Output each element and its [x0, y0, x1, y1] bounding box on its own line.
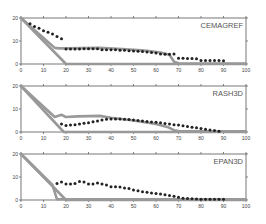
observed-point [159, 121, 162, 124]
x-tick-label: 70 [176, 135, 182, 141]
x-tick-label: 50 [131, 203, 137, 209]
observed-point [38, 27, 41, 30]
y-tick-label: 0 [15, 61, 18, 67]
observed-point [164, 193, 167, 196]
observed-point [132, 188, 135, 191]
observed-point [74, 182, 77, 185]
observed-point [200, 198, 203, 201]
observed-point [92, 120, 95, 123]
observed-point [119, 49, 122, 52]
x-tick-label: 40 [108, 135, 114, 141]
panel-label: RASH3D [213, 89, 244, 98]
observed-point [146, 51, 149, 54]
observed-point [150, 120, 153, 123]
observed-point [191, 197, 194, 200]
observed-point [195, 57, 198, 60]
observed-point [105, 184, 108, 187]
observed-point [141, 119, 144, 122]
observed-point [168, 122, 171, 125]
observed-point [101, 119, 104, 122]
observed-point [150, 51, 153, 54]
observed-point [110, 48, 113, 51]
y-tick-label: 10 [12, 38, 18, 44]
observed-point [168, 194, 171, 197]
x-tick-label: 20 [63, 67, 69, 73]
observed-point [159, 193, 162, 196]
observed-point [213, 129, 216, 132]
observed-point [155, 51, 158, 54]
y-tick-label: 20 [12, 15, 18, 21]
observed-point [204, 198, 207, 201]
observed-point [209, 198, 212, 201]
observed-point [74, 123, 77, 126]
observed-point [155, 121, 158, 124]
x-tick-label: 50 [131, 135, 137, 141]
observed-point [83, 47, 86, 50]
observed-point [146, 191, 149, 194]
x-tick-label: 30 [86, 67, 92, 73]
observed-point [119, 186, 122, 189]
x-tick-label: 60 [153, 135, 159, 141]
chart-svg: 010203040506070809010001020CEMAGREF 0102… [0, 0, 266, 224]
observed-point [33, 25, 36, 28]
observed-point [69, 182, 72, 185]
y-tick-label: 10 [12, 106, 18, 112]
x-tick-label: 50 [131, 67, 137, 73]
observed-point [78, 48, 81, 51]
observed-point [218, 130, 221, 133]
observed-point [146, 120, 149, 123]
observed-point [128, 187, 131, 190]
observed-point [177, 57, 180, 60]
observed-point [164, 122, 167, 125]
observed-point [182, 124, 185, 127]
x-tick-label: 80 [198, 203, 204, 209]
observed-point [60, 122, 63, 125]
observed-point [177, 196, 180, 199]
observed-point [200, 59, 203, 62]
x-tick-label: 60 [153, 203, 159, 209]
observed-point [96, 181, 99, 184]
y-tick-label: 0 [15, 129, 18, 135]
observed-point [218, 59, 221, 62]
observed-point [173, 195, 176, 198]
x-tick-label: 90 [221, 67, 227, 73]
observed-point [56, 35, 59, 38]
observed-point [213, 198, 216, 201]
observed-point [204, 128, 207, 131]
observed-point [123, 187, 126, 190]
panel-label: CEMAGREF [200, 21, 243, 30]
observed-point [191, 126, 194, 129]
observed-point [47, 31, 50, 34]
y-tick-label: 20 [12, 83, 18, 89]
observed-point [173, 53, 176, 56]
observed-point [87, 121, 90, 124]
observed-point [65, 182, 68, 185]
x-tick-label: 10 [41, 135, 47, 141]
observed-point [173, 123, 176, 126]
observed-point [128, 118, 131, 121]
observed-point [119, 118, 122, 121]
x-tick-label: 30 [86, 203, 92, 209]
observed-point [195, 126, 198, 129]
observed-point [60, 37, 63, 40]
observed-point [186, 197, 189, 200]
x-tick-label: 40 [108, 67, 114, 73]
observed-point [92, 182, 95, 185]
x-tick-label: 0 [20, 135, 23, 141]
observed-point [132, 119, 135, 122]
observed-point [218, 198, 221, 201]
observed-point [164, 53, 167, 56]
observed-point [83, 181, 86, 184]
observed-point [78, 122, 81, 125]
x-tick-label: 90 [221, 135, 227, 141]
observed-point [182, 197, 185, 200]
panel-rash3d: 010203040506070809010001020RASH3D [12, 83, 250, 141]
observed-point [137, 119, 140, 122]
observed-point [101, 182, 104, 185]
observed-point [213, 59, 216, 62]
x-tick-label: 10 [41, 67, 47, 73]
observed-point [141, 50, 144, 53]
observed-point [137, 50, 140, 53]
observed-point [222, 59, 225, 62]
x-tick-label: 10 [41, 203, 47, 209]
